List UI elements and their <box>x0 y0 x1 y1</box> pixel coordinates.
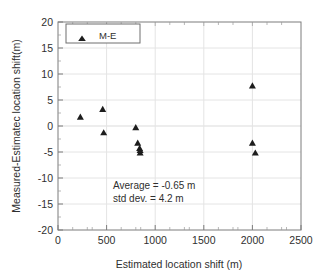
y-tick-label: -5 <box>44 146 53 158</box>
y-tick-label: 0 <box>47 120 53 132</box>
y-tick-label: -20 <box>38 224 53 236</box>
y-tick-label: 10 <box>41 68 53 80</box>
x-tick-label: 1500 <box>192 234 216 246</box>
y-axis-title: Measured-Estimatec location shift(m) <box>10 39 22 212</box>
y-tick-label: -10 <box>38 172 53 184</box>
x-tick-label: 2000 <box>241 234 265 246</box>
x-axis-title: Estimated location shift (m) <box>116 258 243 270</box>
average-annotation: Average = -0.65 m <box>113 180 195 191</box>
y-tick-label: -15 <box>38 198 53 210</box>
x-tick-label: 0 <box>55 234 61 246</box>
plot-canvas: 20 15 10 5 0 -5 -10 -15 -20 0 500 1000 1… <box>0 0 325 278</box>
std-dev-annotation: std dev. = 4.2 m <box>113 193 184 204</box>
legend[interactable]: M-E <box>66 24 140 43</box>
scatter-plot-figure: 20 15 10 5 0 -5 -10 -15 -20 0 500 1000 1… <box>0 0 325 278</box>
y-tick-label: 5 <box>47 94 53 106</box>
y-tick-label: 20 <box>41 16 53 28</box>
x-tick-label: 2500 <box>289 234 313 246</box>
x-tick-label: 1000 <box>144 234 168 246</box>
y-tick-label: 15 <box>41 42 53 54</box>
legend-label: M-E <box>99 30 116 41</box>
x-tick-label: 500 <box>98 234 116 246</box>
